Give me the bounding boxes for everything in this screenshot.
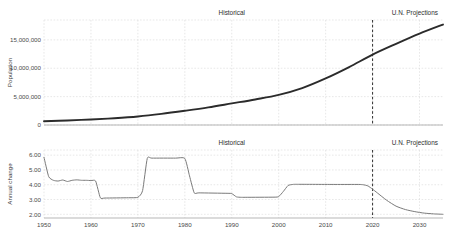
annual-change-chart-svg: 2.003.004.005.006.0019501960197019801990… <box>0 130 449 243</box>
data-series-line <box>44 25 443 122</box>
x-tick-label: 2000 <box>272 221 286 228</box>
projections-annotation: U.N. Projections <box>392 139 438 147</box>
chart-page: 05,000,00010,000,00015,000,000Population… <box>0 0 449 243</box>
y-tick-label: 5.00 <box>29 166 42 173</box>
y-axis-title: Annual change <box>6 163 13 205</box>
historical-annotation: Historical <box>219 9 245 16</box>
y-tick-label: 0 <box>38 121 42 128</box>
x-tick-label: 1950 <box>37 221 51 228</box>
x-tick-label: 2020 <box>366 221 380 228</box>
annual-change-chart-panel: 2.003.004.005.006.0019501960197019801990… <box>0 130 449 243</box>
population-chart-svg: 05,000,00010,000,00015,000,000Population… <box>0 0 449 130</box>
y-tick-label: 15,000,000 <box>10 36 42 43</box>
data-series-line <box>44 157 443 214</box>
x-tick-label: 1990 <box>225 221 239 228</box>
historical-annotation: Historical <box>219 139 245 146</box>
x-tick-label: 2030 <box>413 221 427 228</box>
population-chart-panel: 05,000,00010,000,00015,000,000Population… <box>0 0 449 130</box>
x-tick-label: 1980 <box>178 221 192 228</box>
x-tick-label: 1970 <box>131 221 145 228</box>
x-tick-label: 1960 <box>84 221 98 228</box>
y-tick-label: 10,000,000 <box>10 64 42 71</box>
y-tick-label: 5,000,000 <box>13 93 41 100</box>
projections-annotation: U.N. Projections <box>392 9 438 17</box>
y-tick-label: 6.00 <box>29 151 42 158</box>
y-tick-label: 3.00 <box>29 196 42 203</box>
x-tick-label: 2010 <box>319 221 333 228</box>
y-axis-title: Population <box>6 57 13 87</box>
y-tick-label: 2.00 <box>29 211 42 218</box>
y-tick-label: 4.00 <box>29 181 42 188</box>
